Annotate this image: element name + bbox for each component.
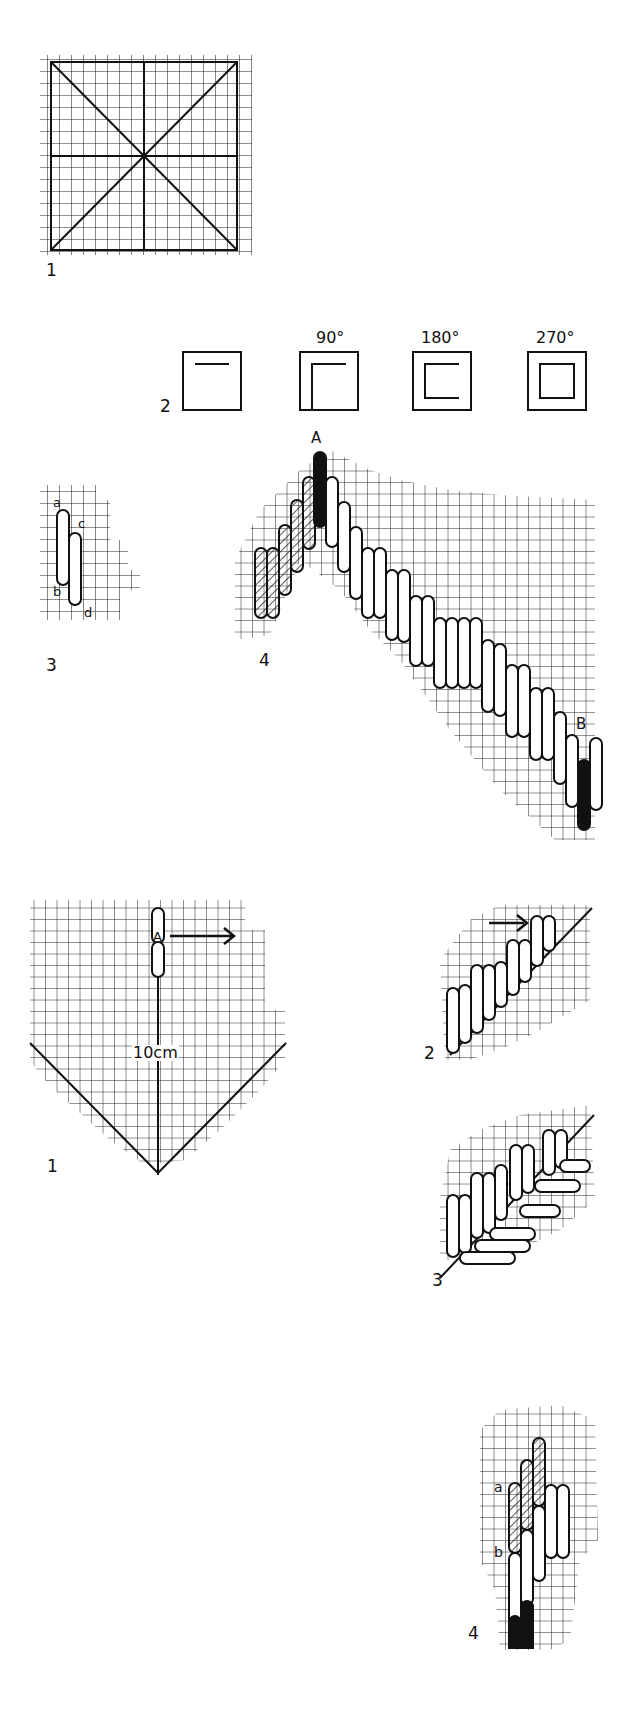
figure-label-rotations: 2 [160, 398, 171, 415]
angle-label-90: 90° [316, 330, 344, 346]
point-b: b [53, 585, 61, 598]
figure-label-stepped: 4 [468, 1625, 479, 1642]
figure-label-diagonal: 4 [259, 652, 270, 669]
stepped-figure [480, 1405, 598, 1650]
point-b-stepped: b [494, 1545, 503, 1559]
diagonal-stitch-figure [235, 450, 602, 840]
figure-label-square: 1 [46, 262, 57, 279]
measure-label: 10cm [132, 1045, 179, 1061]
angle-label-180: 180° [421, 330, 460, 346]
point-a-stepped: a [494, 1480, 503, 1494]
figure-label-herringbone: 3 [432, 1272, 443, 1289]
point-c: c [78, 517, 85, 530]
angle-label-270: 270° [536, 330, 575, 346]
point-B-end: B [576, 717, 586, 732]
point-d: d [84, 606, 92, 619]
point-a: a [53, 496, 61, 509]
point-A-start: A [311, 431, 321, 446]
figure-label-chevron: 1 [47, 1158, 58, 1175]
square-grid-figure [40, 55, 252, 255]
slant-row-figure [440, 905, 592, 1060]
figure-label-small-stitch: 3 [46, 657, 57, 674]
diagram-canvas [0, 0, 623, 1710]
rotation-squares [183, 352, 586, 410]
figure-label-slant: 2 [424, 1045, 435, 1062]
herringbone-figure [440, 1105, 595, 1278]
point-A-chevron: A [153, 930, 162, 943]
